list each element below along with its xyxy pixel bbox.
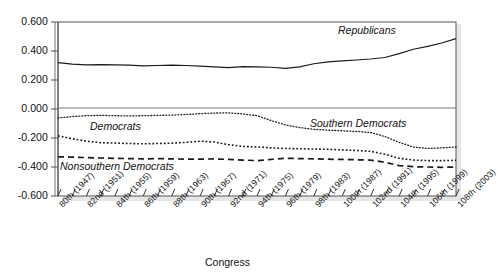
y-tick-label: -0.400	[0, 160, 48, 172]
y-tick-label: 0.000	[0, 102, 48, 114]
x-axis-label: Congress	[205, 256, 250, 268]
y-tick-label: 0.600	[0, 15, 48, 27]
series-annotation-nonsouthern-democrats: Nonsouthern Democrats	[60, 160, 174, 172]
y-tick-label: -0.600	[0, 189, 48, 201]
y-tick-label: -0.200	[0, 131, 48, 143]
series-annotation-southern-democrats: Southern Democrats	[310, 117, 406, 129]
y-tick-label: 0.400	[0, 44, 48, 56]
series-annotation-democrats: Democrats	[90, 120, 141, 132]
y-tick-label: 0.200	[0, 73, 48, 85]
series-annotation-republicans: Republicans	[338, 24, 396, 36]
